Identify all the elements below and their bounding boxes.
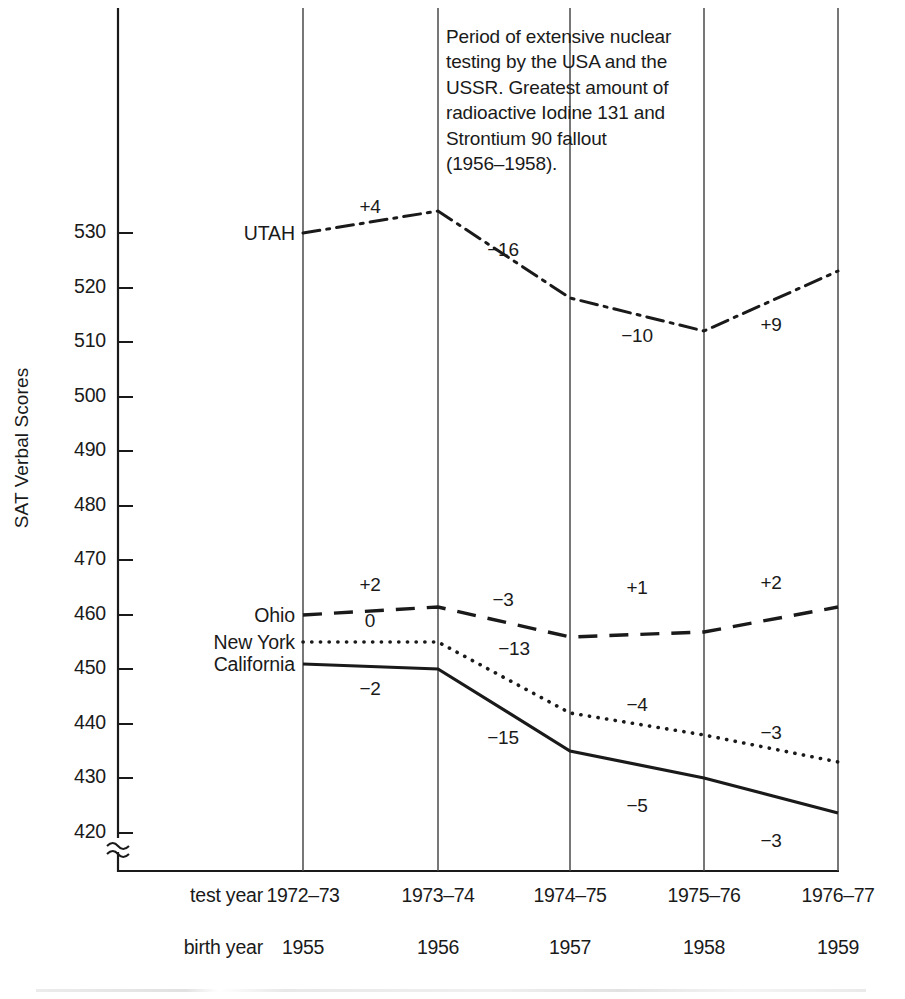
annotation-line: Period of extensive nuclear — [446, 24, 712, 49]
series-label-california: California — [115, 653, 295, 676]
delta-label-new-york-3: −4 — [608, 694, 666, 716]
y-tick-label: 530 — [44, 220, 106, 243]
delta-label-ohio-3: +1 — [607, 577, 667, 599]
x-tick-label-test-year: 1972–73 — [253, 884, 353, 907]
x-tick-label-test-year: 1973–74 — [388, 884, 488, 907]
delta-label-utah-1: +4 — [340, 196, 400, 218]
x-row-title-birth-year: birth year — [128, 936, 263, 959]
x-tick-label-birth-year: 1955 — [253, 936, 353, 959]
x-tick-label-birth-year: 1959 — [788, 936, 888, 959]
y-tick-label: 430 — [44, 765, 106, 788]
y-tick-label: 470 — [44, 547, 106, 570]
y-tick-label: 480 — [44, 493, 106, 516]
delta-label-ohio-4: +2 — [741, 572, 801, 594]
delta-label-new-york-4: −3 — [742, 722, 800, 744]
annotation-line: Strontium 90 fallout — [446, 126, 712, 151]
y-tick-label: 420 — [44, 820, 106, 843]
x-tick-label-birth-year: 1956 — [388, 936, 488, 959]
delta-label-california-3: −5 — [608, 795, 666, 817]
x-tick-label-test-year: 1975–76 — [654, 884, 754, 907]
delta-label-new-york-1: 0 — [340, 610, 400, 632]
x-row-title-test-year: test year — [128, 884, 263, 907]
delta-label-utah-4: +9 — [741, 314, 801, 336]
y-tick-label: 450 — [44, 656, 106, 679]
y-axis-ticks — [118, 233, 133, 833]
y-tick-label: 490 — [44, 438, 106, 461]
annotation-nuclear-testing: Period of extensive nuclear testing by t… — [446, 24, 712, 176]
y-tick-label: 440 — [44, 711, 106, 734]
delta-label-ohio-2: −3 — [474, 589, 532, 611]
annotation-line: radioactive Iodine 131 and — [446, 100, 712, 125]
x-tick-label-birth-year: 1957 — [520, 936, 620, 959]
delta-label-utah-2: −16 — [470, 239, 536, 261]
delta-label-ohio-1: +2 — [340, 574, 400, 596]
series-label-utah: UTAH — [145, 222, 295, 245]
y-tick-label: 500 — [44, 384, 106, 407]
delta-label-new-york-2: −13 — [481, 638, 547, 660]
y-tick-label: 460 — [44, 602, 106, 625]
x-tick-label-birth-year: 1958 — [654, 936, 754, 959]
x-tick-label-test-year: 1976–77 — [788, 884, 888, 907]
annotation-line: USSR. Greatest amount of — [446, 75, 712, 100]
y-tick-label: 510 — [44, 329, 106, 352]
x-tick-label-test-year: 1974–75 — [520, 884, 620, 907]
delta-label-utah-3: −10 — [604, 325, 670, 347]
series-label-ohio: Ohio — [145, 604, 295, 627]
delta-label-california-1: −2 — [341, 678, 399, 700]
y-tick-label: 520 — [44, 275, 106, 298]
sat-verbal-scores-line-chart: SAT Verbal Scores — [0, 0, 905, 999]
annotation-line: testing by the USA and the — [446, 49, 712, 74]
y-axis-break-icon — [107, 843, 129, 857]
delta-label-california-2: −15 — [470, 727, 536, 749]
delta-label-california-4: −3 — [742, 830, 800, 852]
annotation-line: (1956–1958). — [446, 151, 712, 176]
series-label-new-york: New York — [125, 631, 295, 654]
clipped-caption-strip — [36, 989, 866, 992]
